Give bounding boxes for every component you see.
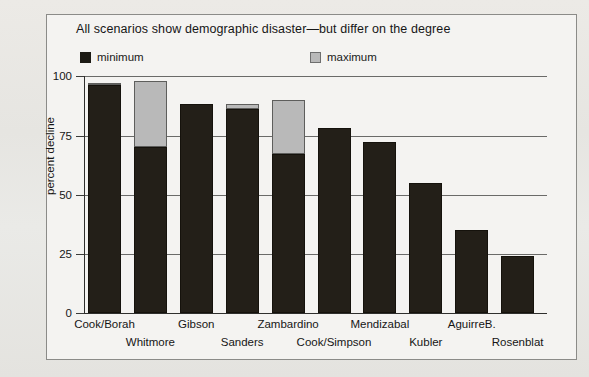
x-label-sanders: Sanders: [221, 336, 264, 348]
x-label-rosenblat: Rosenblat: [492, 336, 544, 348]
x-label-kubler: Kubler: [409, 336, 442, 348]
x-label-aguirreb: AguirreB.: [448, 318, 496, 330]
x-label-cook-simpson: Cook/Simpson: [297, 336, 372, 348]
page-background: All scenarios show demographic disaster—…: [0, 0, 589, 377]
x-label-mendizabal: Mendizabal: [350, 318, 409, 330]
x-label-zambardino: Zambardino: [257, 318, 318, 330]
bar-chart: All scenarios show demographic disaster—…: [0, 0, 589, 377]
x-axis-labels: Cook/BorahWhitmoreGibsonSandersZambardin…: [0, 0, 589, 377]
x-label-cook-borah: Cook/Borah: [74, 318, 135, 330]
x-label-whitmore: Whitmore: [126, 336, 175, 348]
x-label-gibson: Gibson: [178, 318, 214, 330]
